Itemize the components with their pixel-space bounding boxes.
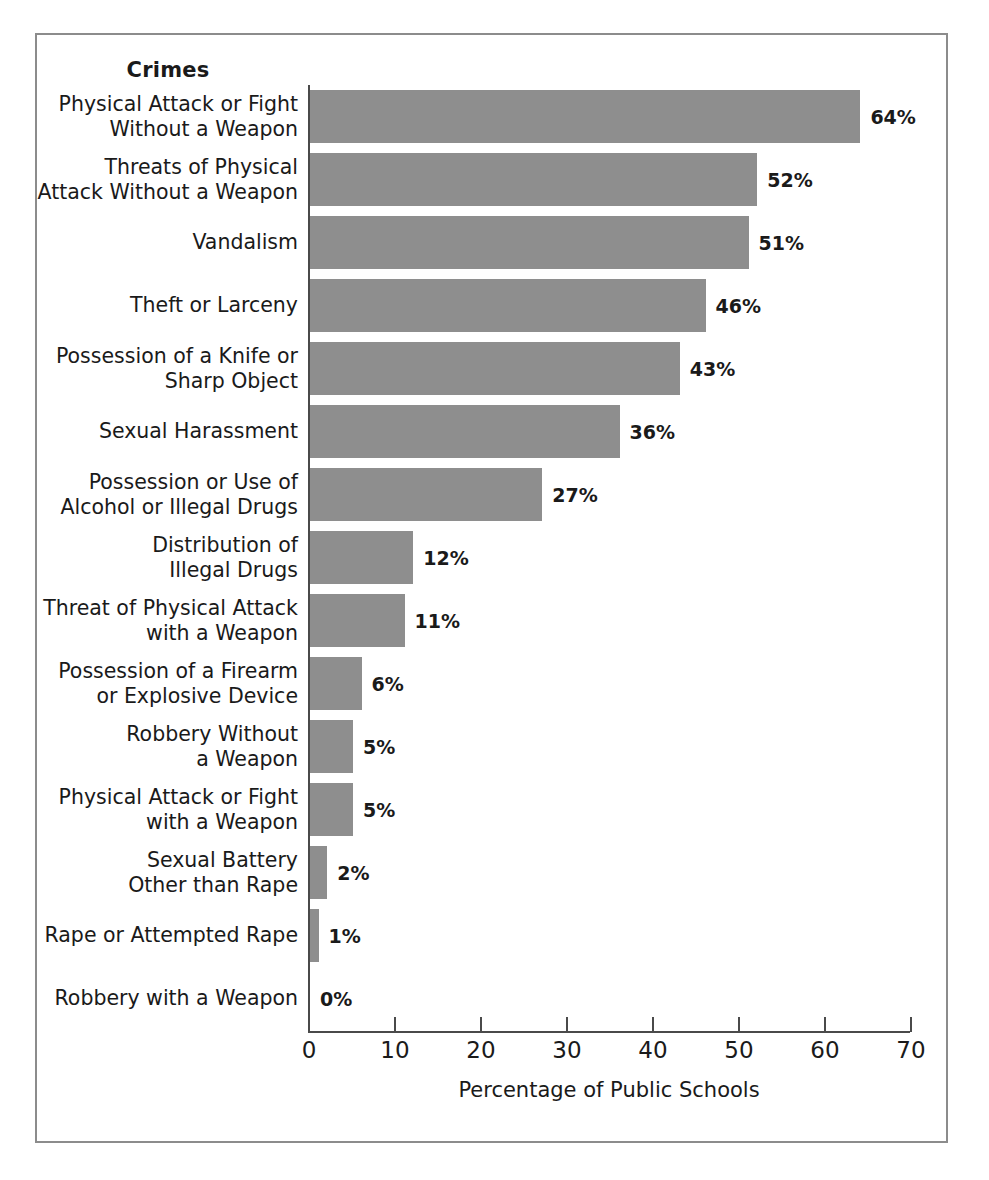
bar[interactable]: [310, 846, 327, 899]
category-axis-title: Crimes: [37, 58, 299, 82]
bar-row[interactable]: Threats of PhysicalAttack Without a Weap…: [37, 148, 950, 211]
tick-label: 0: [279, 1037, 339, 1063]
bar[interactable]: [310, 216, 749, 269]
category-label-line: Rape or Attempted Rape: [45, 923, 298, 948]
category-label: Sexual BatteryOther than Rape: [43, 841, 298, 904]
category-label-line: Sexual Harassment: [99, 419, 298, 444]
bar[interactable]: [310, 153, 757, 206]
tick-label: 30: [537, 1037, 597, 1063]
category-label: Rape or Attempted Rape: [43, 904, 298, 967]
bar-row[interactable]: Vandalism51%: [37, 211, 950, 274]
tick-label: 40: [623, 1037, 683, 1063]
category-label: Sexual Harassment: [43, 400, 298, 463]
tick-mark: [738, 1017, 740, 1032]
bar-row[interactable]: Threat of Physical Attackwith a Weapon11…: [37, 589, 950, 652]
bar-value-label: 51%: [759, 211, 804, 274]
bar[interactable]: [310, 279, 706, 332]
bar-value-label: 46%: [716, 274, 761, 337]
tick-mark: [480, 1017, 482, 1032]
tick-mark: [910, 1017, 912, 1032]
bar-row[interactable]: Robbery Withouta Weapon5%: [37, 715, 950, 778]
bar[interactable]: [310, 594, 405, 647]
bar-value-label: 0%: [320, 967, 352, 1030]
figure-frame: Crimes Physical Attack or FightWithout a…: [35, 33, 948, 1143]
category-label-line: Threat of Physical Attack: [43, 596, 298, 621]
category-label-line: Robbery with a Weapon: [55, 986, 298, 1011]
bar-row[interactable]: Sexual Harassment36%: [37, 400, 950, 463]
tick-mark: [652, 1017, 654, 1032]
bar-row[interactable]: Sexual BatteryOther than Rape2%: [37, 841, 950, 904]
category-label: Distribution ofIllegal Drugs: [43, 526, 298, 589]
bar[interactable]: [310, 468, 542, 521]
bar-value-label: 43%: [690, 337, 735, 400]
category-label: Threat of Physical Attackwith a Weapon: [43, 589, 298, 652]
category-label: Robbery with a Weapon: [43, 967, 298, 1030]
category-label-line: Physical Attack or Fight: [59, 92, 298, 117]
tick-mark: [394, 1017, 396, 1032]
category-label-line: Physical Attack or Fight: [59, 785, 298, 810]
category-label-line: Possession or Use of: [89, 470, 298, 495]
bar-value-label: 5%: [363, 778, 395, 841]
bar[interactable]: [310, 90, 860, 143]
category-label: Theft or Larceny: [43, 274, 298, 337]
bar-value-label: 11%: [415, 589, 460, 652]
bar-value-label: 6%: [372, 652, 404, 715]
category-label-line: Distribution of: [152, 533, 298, 558]
category-label-line: Without a Weapon: [109, 117, 298, 142]
bar-row[interactable]: Rape or Attempted Rape1%: [37, 904, 950, 967]
category-label: Possession or Use ofAlcohol or Illegal D…: [43, 463, 298, 526]
category-label: Robbery Withouta Weapon: [43, 715, 298, 778]
bar[interactable]: [310, 657, 362, 710]
category-label-line: with a Weapon: [146, 621, 298, 646]
bar-row[interactable]: Physical Attack or FightWithout a Weapon…: [37, 85, 950, 148]
bar-value-label: 27%: [552, 463, 597, 526]
bar-row[interactable]: Distribution ofIllegal Drugs12%: [37, 526, 950, 589]
bar-value-label: 12%: [423, 526, 468, 589]
category-label: Possession of a Knife orSharp Object: [43, 337, 298, 400]
bar-value-label: 1%: [329, 904, 361, 967]
category-label-line: Threats of Physical: [104, 155, 298, 180]
category-label-line: Alcohol or Illegal Drugs: [60, 495, 298, 520]
tick-label: 70: [881, 1037, 941, 1063]
bar-row[interactable]: Possession of a Firearmor Explosive Devi…: [37, 652, 950, 715]
bar-value-label: 5%: [363, 715, 395, 778]
tick-mark: [824, 1017, 826, 1032]
bar[interactable]: [310, 783, 353, 836]
category-label-line: Sharp Object: [165, 369, 298, 394]
category-label-line: Other than Rape: [128, 873, 298, 898]
bar[interactable]: [310, 342, 680, 395]
bar-row[interactable]: Possession of a Knife orSharp Object43%: [37, 337, 950, 400]
tick-mark: [566, 1017, 568, 1032]
bar[interactable]: [310, 405, 620, 458]
category-label-line: Robbery Without: [126, 722, 298, 747]
bar-value-label: 2%: [337, 841, 369, 904]
tick-label: 60: [795, 1037, 855, 1063]
bar[interactable]: [310, 531, 413, 584]
bar-row[interactable]: Possession or Use ofAlcohol or Illegal D…: [37, 463, 950, 526]
value-axis-title: Percentage of Public Schools: [308, 1078, 910, 1102]
category-label-line: Illegal Drugs: [169, 558, 298, 583]
category-label-line: Sexual Battery: [147, 848, 298, 873]
category-label-line: with a Weapon: [146, 810, 298, 835]
bar-row[interactable]: Theft or Larceny46%: [37, 274, 950, 337]
tick-label: 10: [365, 1037, 425, 1063]
tick-label: 50: [709, 1037, 769, 1063]
category-label: Physical Attack or FightWithout a Weapon: [43, 85, 298, 148]
value-axis-line: [308, 1031, 910, 1033]
category-label-line: Vandalism: [192, 230, 298, 255]
category-label-line: Possession of a Knife or: [56, 344, 298, 369]
category-label-line: or Explosive Device: [96, 684, 298, 709]
category-label-line: Attack Without a Weapon: [38, 180, 298, 205]
bar-value-label: 64%: [870, 85, 915, 148]
bar-row[interactable]: Robbery with a Weapon0%: [37, 967, 950, 1030]
bar-chart: Crimes Physical Attack or FightWithout a…: [37, 35, 950, 1145]
bar-value-label: 52%: [767, 148, 812, 211]
bar[interactable]: [310, 720, 353, 773]
bar-row[interactable]: Physical Attack or Fightwith a Weapon5%: [37, 778, 950, 841]
tick-label: 20: [451, 1037, 511, 1063]
category-label-line: a Weapon: [196, 747, 298, 772]
category-label-line: Possession of a Firearm: [58, 659, 298, 684]
category-label: Physical Attack or Fightwith a Weapon: [43, 778, 298, 841]
bar[interactable]: [310, 909, 319, 962]
bar-value-label: 36%: [630, 400, 675, 463]
